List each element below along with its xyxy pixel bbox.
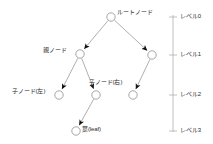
tree-edge [62, 58, 78, 89]
label-child-left: 子ノード(左) [12, 88, 45, 95]
label-child-right: 子ノード(右) [89, 79, 122, 86]
binary-tree-level-diagram: ルートノード親ノード子ノード(左)子ノード(右)葉(leaf) レベル0レベル1… [0, 0, 213, 144]
level-label-2: レベル2 [180, 91, 201, 98]
label-root-node: ルートノード [117, 9, 152, 16]
tree-node-n2a [55, 91, 63, 99]
tree-edge [115, 20, 147, 50]
tree-node-n1l [76, 50, 84, 58]
tree-edge [136, 59, 150, 89]
level-axis [169, 15, 177, 132]
tree-node-n2c [129, 91, 137, 99]
tree-node-n1r [148, 51, 156, 59]
tree-node-n2b [92, 91, 100, 99]
tree-node-root [107, 13, 115, 21]
diagram-canvas [0, 0, 213, 144]
tree-edge [84, 21, 108, 49]
tree-node-leaf [72, 127, 80, 135]
level-label-1: レベル1 [180, 51, 201, 58]
tree-edge [79, 99, 93, 125]
label-leaf: 葉(leaf) [82, 126, 101, 133]
label-parent-node: 親ノード [43, 47, 67, 54]
edges-layer [62, 20, 150, 125]
level-label-0: レベル0 [180, 13, 201, 20]
level-label-3: レベル3 [180, 127, 201, 134]
